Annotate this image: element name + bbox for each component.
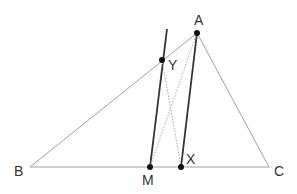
geometry-diagram: ABCMXY [0, 0, 297, 194]
point-x [178, 164, 184, 170]
point-y [159, 57, 165, 63]
point-m [147, 164, 153, 170]
segment-ab [30, 33, 197, 167]
label-x: X [186, 151, 196, 167]
segment-ac [197, 33, 269, 167]
labels: ABCMXY [14, 12, 284, 188]
segment-xa [181, 33, 197, 167]
label-y: Y [168, 57, 178, 73]
segments [30, 29, 269, 167]
label-c: C [274, 163, 284, 179]
segment-yx [162, 60, 181, 167]
points [147, 30, 200, 170]
label-b: B [14, 163, 23, 179]
segment-my [150, 29, 167, 167]
label-m: M [142, 172, 154, 188]
label-a: A [194, 12, 204, 28]
segment-am [150, 33, 197, 167]
point-a [194, 30, 200, 36]
